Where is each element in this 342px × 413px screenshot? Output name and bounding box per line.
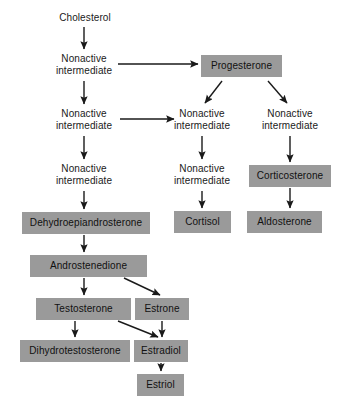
arrow-androstenedione-to-estrone <box>124 278 160 295</box>
node-estradiol: Estradiol <box>134 340 188 362</box>
node-progesterone: Progesterone <box>201 55 282 77</box>
node-nonactive-mid-1: Nonactive intermediate <box>160 108 244 131</box>
node-nonactive-mid-2: Nonactive intermediate <box>160 163 244 186</box>
node-nonactive-left-2: Nonactive intermediate <box>42 108 126 131</box>
node-nonactive-left-1: Nonactive intermediate <box>42 53 126 76</box>
arrow-progesterone-to-right1 <box>268 81 287 103</box>
node-cholesterol: Cholesterol <box>47 12 123 24</box>
steroid-biosynthesis-diagram: CholesterolNonactive intermediateNonacti… <box>0 0 342 413</box>
node-corticosterone: Corticosterone <box>249 165 331 187</box>
arrow-testosterone-to-estradiol <box>118 321 158 337</box>
node-cortisol: Cortisol <box>174 211 231 233</box>
node-testosterone: Testosterone <box>36 298 131 320</box>
node-estriol: Estriol <box>137 374 184 396</box>
node-estrone: Estrone <box>135 298 189 320</box>
node-nonactive-right-1: Nonactive intermediate <box>248 108 332 131</box>
node-dihydrotestosterone: Dihydrotestosterone <box>20 340 130 362</box>
arrow-progesterone-to-mid1 <box>205 81 222 103</box>
node-nonactive-left-3: Nonactive intermediate <box>42 163 126 186</box>
node-aldosterone: Aldosterone <box>247 211 322 233</box>
node-dehydroepiandrosterone: Dehydroepiandrosterone <box>22 212 150 234</box>
node-androstenedione: Androstenedione <box>30 255 147 277</box>
